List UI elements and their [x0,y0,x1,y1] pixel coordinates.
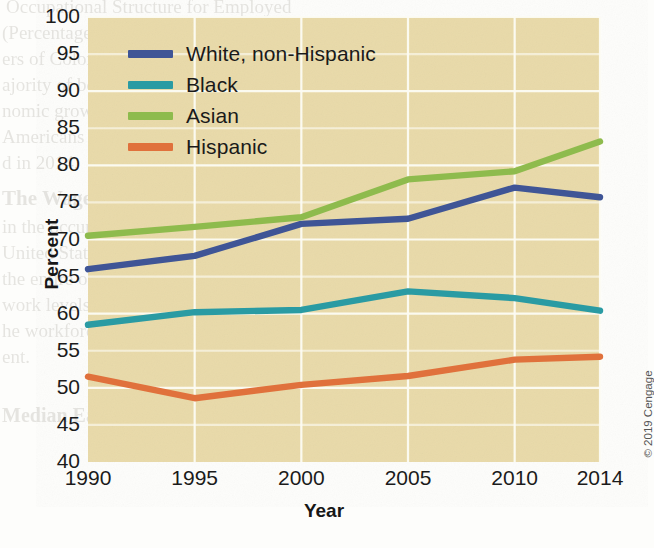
y-tick-label: 85 [34,115,80,139]
y-tick-label: 90 [34,78,80,102]
legend-item: Black [128,69,376,100]
x-tick-label: 2005 [365,466,451,490]
legend-label: Hispanic [186,135,267,159]
legend-swatch [128,143,173,151]
x-tick-label: 2010 [472,466,558,490]
y-tick-label: 70 [34,227,80,251]
legend-swatch [128,81,173,89]
x-tick-label: 1990 [45,466,131,490]
y-tick-label: 95 [34,41,80,65]
y-tick-label: 60 [34,301,80,325]
y-tick-label: 50 [34,375,80,399]
legend-swatch [128,112,173,120]
y-tick-label: 65 [34,264,80,288]
copyright-notice: © 2019 Cengage [642,349,654,479]
y-tick-label: 55 [34,338,80,362]
x-tick-label: 2000 [258,466,344,490]
legend-label: Black [186,73,238,97]
x-tick-label: 1995 [152,466,238,490]
x-axis-title: Year [0,500,648,522]
legend-item: Asian [128,100,376,131]
legend-label: Asian [186,104,239,128]
y-tick-label: 80 [34,152,80,176]
y-tick-label: 75 [34,189,80,213]
y-tick-label: 45 [34,412,80,436]
legend-item: Hispanic [128,131,376,162]
chart-legend: White, non-HispanicBlackAsianHispanic [128,38,376,162]
legend-item: White, non-Hispanic [128,38,376,69]
legend-label: White, non-Hispanic [186,42,376,66]
x-tick-label: 2014 [557,466,643,490]
y-tick-label: 100 [34,4,80,28]
legend-swatch [128,50,173,58]
